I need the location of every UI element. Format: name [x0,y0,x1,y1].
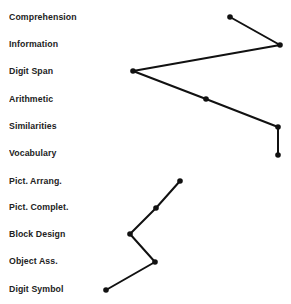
series-performance [103,178,183,293]
data-point [275,152,281,158]
data-point [203,96,209,102]
profile-line [133,17,280,155]
profile-plot [0,0,291,304]
data-point [277,42,283,48]
data-point [127,231,133,237]
data-point [130,68,136,74]
data-point [103,287,109,293]
series-verbal [130,14,283,158]
data-point [227,14,233,20]
data-point [152,259,158,265]
data-point [275,124,281,130]
data-point [153,205,159,211]
data-point [177,178,183,184]
profile-line [106,181,180,290]
